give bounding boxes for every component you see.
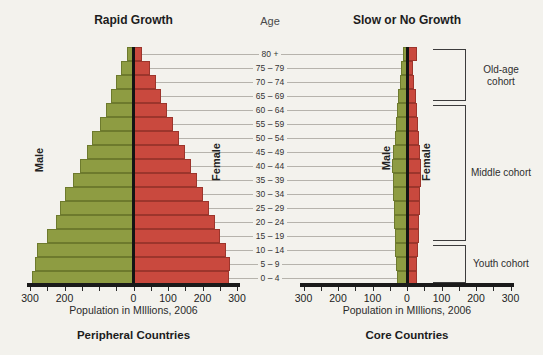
gridline-segment [237,138,253,139]
gridline-segment [287,222,303,223]
gridline [134,54,238,55]
gridline [303,138,407,139]
gridline-segment [237,180,253,181]
age-row: 40 – 44 [237,159,303,173]
middle-cohort: Middle cohort [433,105,533,241]
right-zero-axis-line [406,47,409,285]
axis-tick-label: 100 [159,292,177,304]
age-group-label: 55 – 59 [253,119,287,129]
left-chart-caption: Peripheral Countries [30,329,237,341]
gridline [303,180,407,181]
axis-tick-label: 300 [228,292,246,304]
bar-male-45–49 [87,145,134,159]
gridline-segment [281,54,303,55]
axis-tick [30,287,31,291]
axis-tick-label: 0 [404,292,410,304]
axis-tick [493,287,494,291]
gridline [303,208,407,209]
bar-female-55–59 [407,117,418,131]
axis-tick [99,287,100,291]
gridline-segment [287,152,303,153]
axis-tick [424,287,425,291]
age-group-label: 35 – 39 [253,175,287,185]
right-chart-caption: Core Countries [303,329,511,341]
right-x-axis-line [300,283,514,287]
age-axis-header: Age [237,15,303,27]
age-row: 35 – 39 [237,173,303,187]
age-labels-column: 80 +75 – 7970 – 7465 – 6960 – 6455 – 595… [237,47,303,285]
right-male-label: Male [380,146,392,170]
bar-female-60–64 [407,103,417,117]
axis-tick [321,287,322,291]
gridline [303,222,407,223]
gridline [303,110,407,111]
bar-male-65–69 [111,89,133,103]
bar-female-15–19 [407,229,419,243]
axis-tick [134,287,135,291]
age-row: 55 – 59 [237,117,303,131]
age-group-label: 40 – 44 [253,161,287,171]
axis-tick [47,287,48,291]
age-row: 75 – 79 [237,61,303,75]
axis-tick [185,287,186,291]
age-row: 80 + [237,47,303,61]
axis-tick [511,287,512,291]
gridline-segment [287,110,303,111]
gridline-segment [237,96,253,97]
axis-tick [338,287,339,291]
bar-female-75–79 [134,61,150,75]
bar-female-50–54 [134,131,180,145]
age-group-label: 80 + [259,49,282,59]
gridline-segment [287,194,303,195]
middle-bracket-icon [433,105,466,241]
gridline [303,82,407,83]
age-row: 70 – 74 [237,75,303,89]
age-group-label: 5 – 9 [258,259,283,269]
axis-tick [116,287,117,291]
axis-tick-label: 300 [502,292,520,304]
bar-male-60–64 [106,103,134,117]
gridline-segment [287,250,303,251]
bar-male-40–44 [80,159,134,173]
axis-tick [82,287,83,291]
left-x-axis-title: Population in MIllions, 2006 [30,304,237,316]
axis-tick-label: 100 [364,292,382,304]
bar-female-5–9 [134,257,231,271]
gridline-segment [287,166,303,167]
gridline [303,194,407,195]
axis-tick-label: 300 [295,292,313,304]
gridline [303,124,407,125]
left-male-label: Male [33,148,45,172]
bar-male-35–39 [73,173,134,187]
gridline-segment [237,264,258,265]
age-group-label: 75 – 79 [253,63,287,73]
right-female-label: Female [420,143,432,181]
bar-female-35–39 [134,173,197,187]
age-group-label: 50 – 54 [253,133,287,143]
bar-male-70–74 [116,75,134,89]
age-group-label: 60 – 64 [253,105,287,115]
bar-female-80+ [407,47,417,61]
bar-female-30–34 [407,187,420,201]
axis-tick [237,287,238,291]
age-group-label: 10 – 14 [253,245,287,255]
bar-female-20–24 [134,215,215,229]
age-group-label: 30 – 34 [253,189,287,199]
gridline-segment [237,124,253,125]
gridline-segment [237,250,253,251]
gridline-segment [287,138,303,139]
old-age-cohort-label: Old-age cohort [469,64,533,87]
gridline-segment [287,208,303,209]
age-group-label: 0 – 4 [258,273,283,283]
gridline-segment [287,236,303,237]
bar-female-55–59 [134,117,174,131]
bar-female-40–44 [134,159,192,173]
bar-female-15–19 [134,229,221,243]
youth-cohort-label: Youth cohort [469,258,533,270]
bar-female-25–29 [407,201,420,215]
gridline-segment [237,152,253,153]
gridline-segment [237,54,259,55]
age-group-label: 25 – 29 [253,203,287,213]
axis-tick-label: 200 [194,292,212,304]
age-row: 20 – 24 [237,215,303,229]
